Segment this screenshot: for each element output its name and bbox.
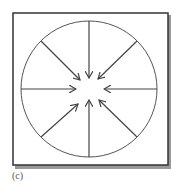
convergence-diagram	[0, 0, 178, 188]
figure-label: (c)	[12, 170, 23, 181]
